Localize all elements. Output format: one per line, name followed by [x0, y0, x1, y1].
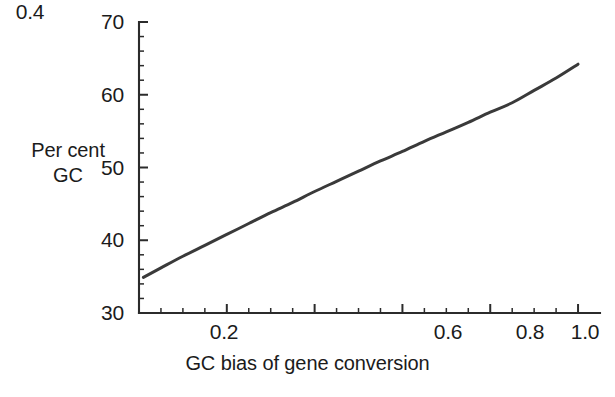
y-axis-title-line2: GC [16, 163, 120, 188]
y-tick-label-60: 60 [78, 83, 124, 107]
data-line-series [143, 64, 578, 277]
x-tick-label-0-8: 0.8 [500, 320, 560, 344]
y-axis-title: Per centGC [16, 138, 120, 188]
x-tick-label-1-0: 1.0 [555, 320, 615, 344]
y-tick-label-30: 30 [78, 301, 124, 325]
x-axis-title: GC bias of gene conversion [0, 352, 615, 375]
x-tick-label-0-4: 0.4 [0, 0, 60, 24]
x-tick-label-0-6: 0.6 [418, 320, 478, 344]
y-tick-label-70: 70 [78, 10, 124, 34]
x-axis [139, 304, 600, 313]
chart-figure: 70 60 50 40 30 0.2 0.4 0.6 0.8 1.0 Per c… [0, 0, 615, 397]
x-tick-label-0-2: 0.2 [194, 320, 254, 344]
y-axis-title-line1: Per cent [31, 139, 105, 161]
y-axis [139, 22, 148, 313]
y-tick-label-40: 40 [78, 228, 124, 252]
